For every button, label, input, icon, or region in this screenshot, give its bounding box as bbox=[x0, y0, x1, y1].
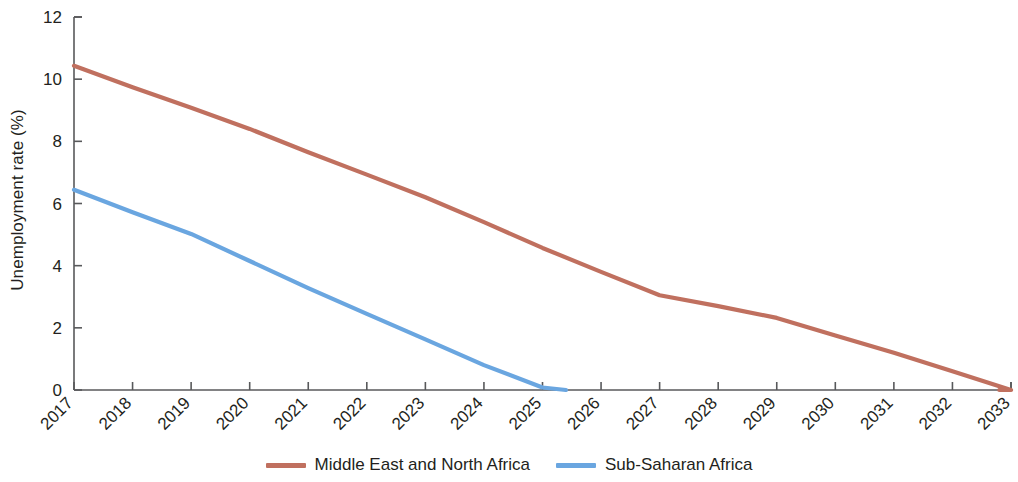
x-tick-label: 2018 bbox=[95, 393, 135, 433]
x-tick-label: 2019 bbox=[154, 393, 194, 433]
x-tick-label: 2023 bbox=[388, 393, 428, 433]
plot-area: 024681012 201720182019202020212022202320… bbox=[0, 0, 1018, 455]
x-tick-label: 2017 bbox=[37, 393, 77, 433]
legend-item-middle-east-and-north-africa[interactable]: Middle East and North Africa bbox=[266, 455, 530, 475]
y-tick-label: 8 bbox=[53, 132, 62, 151]
x-tick-label: 2030 bbox=[798, 393, 838, 433]
legend-label-series-2: Sub-Saharan Africa bbox=[605, 455, 752, 475]
legend-color-swatch-series-1 bbox=[266, 463, 306, 468]
legend-label-series-1: Middle East and North Africa bbox=[315, 455, 530, 475]
series-line-1 bbox=[74, 66, 1011, 390]
legend-color-swatch-series-2 bbox=[556, 463, 596, 468]
y-tick-label: 4 bbox=[53, 257, 62, 276]
x-tick-label: 2032 bbox=[915, 393, 955, 433]
x-tick-label: 2021 bbox=[271, 393, 311, 433]
unemployment-rate-line-chart: Unemployment rate (%) 024681012 20172018… bbox=[0, 0, 1018, 482]
axis-lines bbox=[74, 17, 1011, 390]
chart-legend: Middle East and North Africa Sub-Saharan… bbox=[0, 455, 1018, 475]
x-tick-label: 2020 bbox=[212, 393, 252, 433]
x-tick-label: 2028 bbox=[681, 393, 721, 433]
x-axis-tick-labels: 2017201820192020202120222023202420252026… bbox=[37, 393, 1014, 433]
x-tick-label: 2026 bbox=[564, 393, 604, 433]
x-tick-label: 2022 bbox=[329, 393, 369, 433]
legend-item-sub-saharan-africa[interactable]: Sub-Saharan Africa bbox=[556, 455, 752, 475]
y-tick-label: 6 bbox=[53, 195, 62, 214]
y-tick-label: 2 bbox=[53, 319, 62, 338]
x-tick-label: 2025 bbox=[505, 393, 545, 433]
x-tick-label: 2029 bbox=[739, 393, 779, 433]
y-tick-label: 10 bbox=[43, 70, 62, 89]
x-tick-label: 2024 bbox=[447, 393, 487, 433]
x-tick-label: 2031 bbox=[857, 393, 897, 433]
series-line-2 bbox=[74, 190, 566, 390]
y-tick-label: 12 bbox=[43, 8, 62, 27]
x-tick-label: 2027 bbox=[622, 393, 662, 433]
data-series-group bbox=[74, 66, 1011, 390]
x-tick-label: 2033 bbox=[974, 393, 1014, 433]
